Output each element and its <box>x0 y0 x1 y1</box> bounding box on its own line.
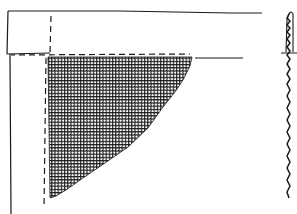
top-horizontal-box <box>7 11 262 58</box>
left-vertical-post <box>10 56 11 214</box>
dashed-guide-horizontal <box>9 54 190 55</box>
right-capsule <box>281 12 297 198</box>
hatched-triangle <box>48 57 192 198</box>
sketch-canvas <box>0 0 297 214</box>
